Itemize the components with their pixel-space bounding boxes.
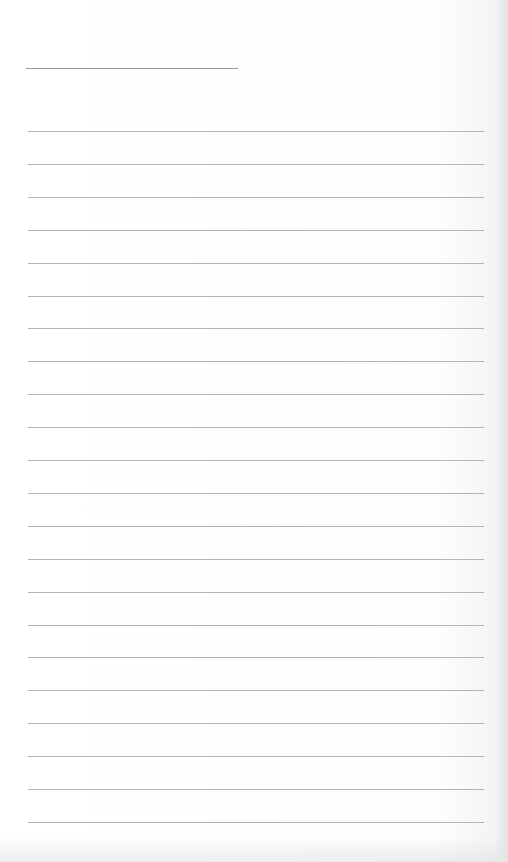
ruled-line (28, 263, 484, 264)
ruled-line (28, 230, 484, 231)
ruled-line (28, 559, 484, 560)
ruled-line (28, 592, 484, 593)
ruled-line (28, 625, 484, 626)
ruled-line (28, 789, 484, 790)
ruled-line (28, 197, 484, 198)
lined-paper-page (0, 0, 508, 862)
page-edge-shadow (494, 0, 508, 862)
ruled-line (28, 657, 484, 658)
ruled-line (28, 328, 484, 329)
page-bottom-shadow (0, 836, 508, 862)
ruled-line (28, 690, 484, 691)
ruled-line (28, 131, 484, 132)
title-writing-line (26, 68, 238, 69)
ruled-line (28, 822, 484, 823)
ruled-line (28, 394, 484, 395)
ruled-line (28, 460, 484, 461)
ruled-line (28, 164, 484, 165)
ruled-line (28, 427, 484, 428)
ruled-line (28, 756, 484, 757)
ruled-line (28, 296, 484, 297)
ruled-line (28, 723, 484, 724)
ruled-line (28, 526, 484, 527)
ruled-line (28, 361, 484, 362)
ruled-line (28, 493, 484, 494)
